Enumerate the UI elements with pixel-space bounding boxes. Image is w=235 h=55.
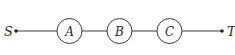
node-a: A (57, 19, 82, 44)
node-a-label: A (64, 25, 74, 39)
node-c: C (157, 19, 182, 44)
node-c-label: C (165, 25, 174, 39)
series-network-diagram: S A B C T (0, 0, 235, 55)
node-b-label: B (114, 25, 124, 39)
source-label: S (4, 24, 13, 39)
diagram-canvas: S A B C T (0, 0, 235, 55)
sink-label: T (227, 24, 235, 39)
node-b: B (107, 19, 132, 44)
sink-terminal-dot (220, 29, 224, 33)
source-terminal-dot (14, 29, 18, 33)
